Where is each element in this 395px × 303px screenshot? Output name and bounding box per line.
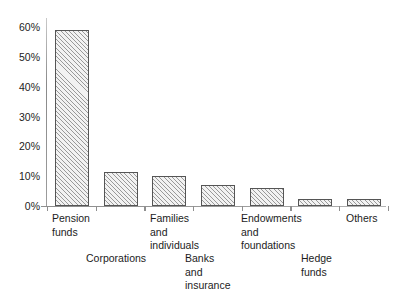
bar bbox=[298, 199, 332, 206]
category-label: Banks and insurance bbox=[185, 252, 231, 293]
y-axis-tick-label: 0% bbox=[25, 201, 40, 211]
y-axis-tick-label: 60% bbox=[19, 22, 40, 32]
y-axis-tick-label: 40% bbox=[19, 82, 40, 92]
category-label: Others bbox=[346, 212, 378, 226]
category-label: Pension funds bbox=[52, 212, 90, 239]
bar bbox=[201, 185, 235, 206]
y-axis-tick-label: 30% bbox=[19, 112, 40, 122]
y-axis-labels: 60%50%40%30%20%10%0% bbox=[0, 18, 40, 207]
category-label: Endowments and foundations bbox=[241, 212, 302, 253]
bar bbox=[250, 188, 284, 206]
y-axis-line bbox=[46, 18, 47, 207]
category-label: Families and individuals bbox=[150, 212, 199, 253]
x-axis-category-labels: Pension fundsCorporationsFamilies and in… bbox=[46, 207, 395, 303]
y-axis-tick-label: 10% bbox=[19, 171, 40, 181]
category-label: Hedge funds bbox=[301, 252, 332, 279]
bar-chart: 60%50%40%30%20%10%0% Pension fundsCorpor… bbox=[0, 0, 395, 303]
bar bbox=[347, 199, 381, 206]
plot-area bbox=[46, 18, 386, 207]
category-label: Corporations bbox=[86, 252, 146, 266]
bar bbox=[55, 30, 89, 206]
bar bbox=[104, 172, 138, 206]
bar bbox=[152, 176, 186, 206]
y-axis-tick-label: 20% bbox=[19, 141, 40, 151]
y-axis-tick-label: 50% bbox=[19, 52, 40, 62]
